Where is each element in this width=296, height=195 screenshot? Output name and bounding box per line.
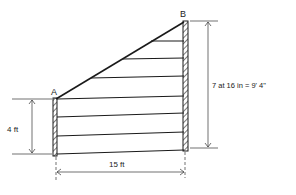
left-height-label: 4 ft bbox=[7, 125, 19, 134]
point-a-label: A bbox=[51, 87, 57, 97]
board-6 bbox=[57, 132, 184, 136]
horizontal-boards bbox=[57, 41, 184, 154]
board-7-base bbox=[57, 150, 184, 154]
board-4 bbox=[57, 96, 184, 99]
base-length-label: 15 ft bbox=[109, 160, 125, 169]
board-5 bbox=[57, 113, 184, 117]
post-a bbox=[53, 98, 57, 156]
diagonal-top-edge bbox=[56, 22, 184, 99]
diagram-canvas: A B 4 ft 7 at 16 in = 9' 4" 15 ft bbox=[0, 0, 296, 195]
point-b-label: B bbox=[180, 9, 186, 19]
post-b bbox=[183, 21, 188, 151]
board-3 bbox=[91, 76, 184, 78]
board-2 bbox=[123, 58, 184, 59]
right-height-label: 7 at 16 in = 9' 4" bbox=[212, 81, 266, 90]
